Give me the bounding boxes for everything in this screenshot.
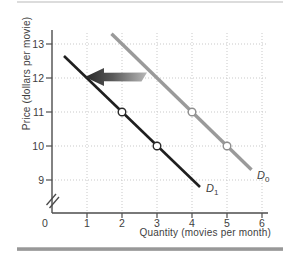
label-d0-sub: 0: [265, 175, 269, 184]
bottom-rule: [17, 247, 283, 251]
label-d1-sub: 1: [214, 188, 218, 197]
axes: [52, 30, 268, 213]
left-shift-arrow-icon: [85, 68, 147, 86]
label-d0-letter: D: [257, 169, 265, 181]
y-axis-title: Price (dollars per movie): [21, 4, 32, 144]
demand-shift-chart: 13 12 11 10 9 0 1 2 3 4 5 6 Price (dolla…: [0, 0, 289, 259]
x-tick-0: 0: [35, 217, 55, 229]
y-axis-break-icon: [47, 194, 60, 208]
y-tick-9: 9: [22, 174, 44, 186]
gridlines: [52, 33, 268, 213]
x-axis-title: Quantity (movies per month): [111, 227, 271, 238]
label-d0: D0: [257, 169, 269, 184]
label-d1-letter: D: [206, 182, 214, 194]
label-d1: D1: [206, 182, 218, 197]
x-tick-1: 1: [77, 217, 97, 229]
demand-curve-d0: [112, 34, 252, 170]
